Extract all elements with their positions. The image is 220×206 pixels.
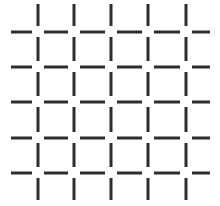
dashed-grid-figure xyxy=(0,0,220,206)
figure-canvas xyxy=(0,0,220,206)
canvas-background xyxy=(0,0,220,206)
